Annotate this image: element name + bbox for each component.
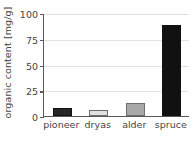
x-tick-label-dryas: dryas	[85, 119, 111, 130]
y-tick-label: 50	[26, 60, 38, 71]
x-tick-label-alder: alder	[122, 119, 146, 130]
bar-dryas	[89, 110, 108, 116]
plot-area	[43, 14, 189, 117]
y-tick-label: 75	[26, 34, 38, 45]
y-axis-tick-labels: 0255075100	[14, 0, 40, 124]
bar-alder	[126, 103, 145, 116]
y-tick-label: 25	[26, 86, 38, 97]
x-axis-tick-labels: pioneerdryasalderspruce	[43, 119, 189, 139]
x-tick-label-spruce: spruce	[155, 119, 187, 130]
x-tick-label-pioneer: pioneer	[43, 119, 79, 130]
bar-chart-figure: organic content [mg/g] 0255075100 pionee…	[0, 0, 195, 148]
y-tick-label: 0	[32, 112, 38, 123]
bar-pioneer	[53, 108, 72, 116]
bars-layer	[44, 14, 189, 116]
y-tick-label: 100	[20, 9, 38, 20]
y-axis-title-label: organic content [mg/g]	[3, 6, 14, 118]
bar-spruce	[162, 25, 181, 116]
